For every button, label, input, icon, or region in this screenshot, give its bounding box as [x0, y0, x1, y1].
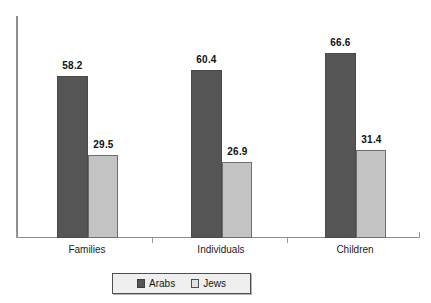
- bar-chart: 58.2 29.5 60.4 26.9 66.6 31.4 Families I…: [0, 0, 431, 303]
- x-axis-separator-tick-2: [287, 238, 288, 243]
- x-axis-label-individuals: Individuals: [181, 244, 261, 255]
- legend-item-arabs: Arabs: [137, 278, 175, 289]
- dark-gray-swatch-icon: [137, 279, 145, 288]
- bar-children-jews: [356, 150, 386, 238]
- bar-value-children-jews: 31.4: [351, 134, 392, 145]
- bar-children-arabs: [325, 53, 356, 238]
- light-gray-swatch-icon: [191, 279, 199, 288]
- bar-families-arabs: [57, 76, 88, 238]
- plot-area: 58.2 29.5 60.4 26.9 66.6 31.4: [0, 0, 431, 238]
- legend-label-arabs: Arabs: [149, 278, 175, 289]
- bar-value-families-arabs: 58.2: [52, 60, 93, 71]
- x-axis-separator-tick-1: [152, 238, 153, 243]
- x-axis-label-children: Children: [315, 244, 395, 255]
- bar-individuals-jews: [222, 162, 252, 238]
- chart-legend: Arabs Jews: [112, 273, 251, 294]
- legend-item-jews: Jews: [191, 278, 226, 289]
- bar-families-jews: [88, 155, 118, 238]
- x-axis-label-families: Families: [47, 244, 127, 255]
- bar-value-families-jews: 29.5: [83, 139, 124, 150]
- bar-value-individuals-arabs: 60.4: [186, 54, 227, 65]
- bar-value-children-arabs: 66.6: [320, 37, 361, 48]
- legend-label-jews: Jews: [203, 278, 226, 289]
- bar-value-individuals-jews: 26.9: [217, 146, 258, 157]
